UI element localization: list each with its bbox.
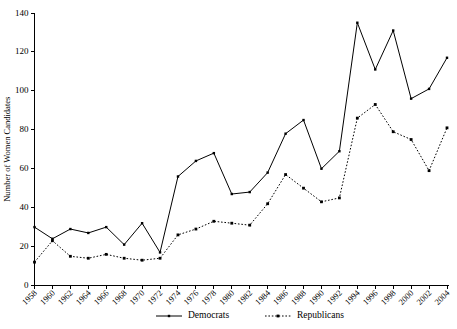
x-axis-tick-label: 1992: [325, 288, 344, 307]
x-axis-tick-label: 2000: [396, 288, 415, 307]
x-axis-tick-label: 1968: [109, 288, 128, 307]
x-axis-tick-label: 1960: [38, 288, 57, 307]
y-axis-tick-label: 40: [20, 202, 30, 212]
data-point: [302, 119, 304, 121]
series-line-democrats: [35, 23, 448, 253]
x-axis-tick-label: 1982: [235, 288, 254, 307]
data-point: [177, 233, 180, 236]
data-point: [213, 152, 215, 154]
data-point: [410, 138, 413, 141]
data-point: [51, 239, 54, 242]
data-point: [248, 224, 251, 227]
x-axis-tick-label: 1980: [217, 288, 236, 307]
data-point: [69, 255, 72, 258]
data-point: [266, 171, 268, 173]
data-point: [105, 226, 107, 228]
data-point: [230, 222, 233, 225]
y-axis-title-text: Number of Women Candidates: [2, 97, 12, 202]
legend-label: Republicans: [297, 310, 344, 320]
data-point: [249, 191, 251, 193]
x-axis-tick-label: 1974: [163, 287, 183, 307]
data-point: [212, 220, 215, 223]
data-point: [141, 222, 143, 224]
series-democrats: [33, 22, 448, 254]
x-axis-tick-label: 1994: [343, 287, 363, 307]
data-point: [266, 202, 269, 205]
x-axis-tick-label: 1978: [199, 288, 218, 307]
chart-legend: DemocratsRepublicans: [156, 310, 344, 320]
x-axis-tick-label: 1990: [307, 288, 326, 307]
y-axis-tick-label: 60: [20, 163, 30, 173]
data-point: [356, 22, 358, 24]
data-point: [231, 193, 233, 195]
x-axis-tick-label: 1988: [289, 288, 308, 307]
data-point: [33, 226, 35, 228]
data-point: [302, 187, 305, 190]
x-axis-tick-label: 1996: [361, 288, 380, 307]
data-point: [195, 160, 197, 162]
data-point: [141, 259, 144, 262]
data-point: [284, 132, 286, 134]
x-axis-tick-label: 1962: [56, 288, 75, 307]
data-point: [392, 29, 394, 31]
data-point: [33, 261, 36, 264]
x-axis-tick-label: 1970: [127, 288, 146, 307]
chart-container: 020406080100120140 195819601962196419661…: [0, 0, 457, 329]
data-point: [338, 150, 340, 152]
data-point: [338, 197, 341, 200]
legend-item-republicans: Republicans: [265, 310, 344, 320]
x-axis-tick-label: 1986: [271, 288, 290, 307]
x-axis-tick-label: 1966: [92, 288, 111, 307]
y-axis-tick-label: 0: [24, 280, 29, 290]
y-axis-tick-label: 20: [20, 241, 30, 251]
data-point: [446, 126, 449, 129]
y-axis-tick-label: 100: [15, 85, 29, 95]
data-point: [356, 117, 359, 120]
y-axis-tick-label: 120: [15, 46, 29, 56]
x-axis-tick-label: 1972: [145, 288, 164, 307]
series-republicans: [33, 103, 448, 263]
line-chart: 020406080100120140 195819601962196419661…: [0, 0, 457, 329]
legend-item-democrats: Democrats: [156, 310, 229, 320]
data-point: [87, 232, 89, 234]
data-point: [69, 228, 71, 230]
y-axis-tick-label: 140: [15, 8, 29, 18]
x-axis-tick-label: 1998: [379, 288, 398, 307]
y-axis-tick-label: 80: [20, 124, 30, 134]
x-axis-tick-label: 2002: [414, 288, 433, 307]
series-line-republicans: [35, 104, 448, 262]
data-point: [374, 103, 377, 106]
x-axis-tick-label: 1984: [253, 287, 273, 307]
y-axis: 020406080100120140: [15, 8, 35, 291]
data-point: [159, 257, 162, 260]
data-point: [105, 253, 108, 256]
y-axis-title: Number of Women Candidates: [2, 97, 12, 202]
data-point: [159, 251, 161, 253]
data-point: [446, 57, 448, 59]
data-point: [123, 243, 125, 245]
data-point: [320, 168, 322, 170]
data-point: [428, 169, 431, 172]
data-point: [284, 173, 287, 176]
data-point: [320, 200, 323, 203]
legend-marker-swatch: [168, 315, 170, 317]
x-axis-tick-label: 1958: [20, 288, 39, 307]
data-point: [428, 88, 430, 90]
x-axis-tick-label: 1976: [181, 288, 200, 307]
data-point: [87, 257, 90, 260]
x-axis-tick-label: 1964: [74, 287, 94, 307]
data-series-group: [33, 22, 448, 264]
data-point: [177, 175, 179, 177]
legend-label: Democrats: [188, 310, 229, 320]
data-point: [195, 228, 198, 231]
data-point: [392, 130, 395, 133]
x-axis-tick-label: 2004: [432, 287, 452, 307]
data-point: [374, 68, 376, 70]
data-point: [410, 97, 412, 99]
legend-marker-swatch: [277, 315, 280, 318]
x-axis: 1958196019621964196619681970197219741976…: [20, 286, 452, 307]
data-point: [123, 257, 126, 260]
